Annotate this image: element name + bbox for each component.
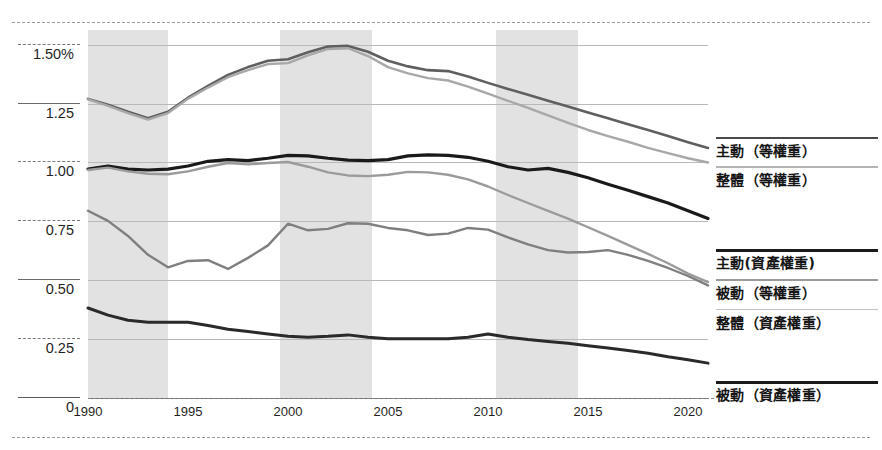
y-tick-rule bbox=[18, 103, 80, 104]
legend-label: 整體（等權重） bbox=[716, 166, 878, 189]
y-axis-tick: 1.25 bbox=[0, 103, 80, 121]
legend-swatch-line bbox=[716, 279, 878, 281]
y-tick-rule bbox=[18, 161, 80, 162]
legend-label: 被動（資產權重） bbox=[716, 381, 878, 404]
y-tick-rule bbox=[18, 44, 80, 45]
x-axis-tick: 1990 bbox=[74, 404, 103, 419]
legend-item[interactable]: 整體（等權重） bbox=[716, 166, 878, 189]
y-tick-rule bbox=[18, 279, 80, 280]
series-lines bbox=[88, 30, 708, 398]
legend-item[interactable]: 被動（等權重） bbox=[716, 279, 878, 302]
legend-label: 主動(資產權重) bbox=[716, 249, 878, 272]
y-tick-rule bbox=[18, 397, 80, 398]
y-tick-label: 1.50% bbox=[0, 44, 80, 62]
legend-item[interactable]: 整體（資產權重） bbox=[716, 309, 878, 332]
y-axis-tick: 0.50 bbox=[0, 279, 80, 297]
x-axis: 1990199520002005201020152020 bbox=[88, 398, 714, 438]
y-axis-tick: 0.75 bbox=[0, 220, 80, 238]
x-axis-tick: 2020 bbox=[674, 404, 703, 419]
legend-label: 主動（等權重） bbox=[716, 137, 878, 160]
x-axis-line bbox=[88, 398, 714, 399]
x-axis-tick: 2015 bbox=[574, 404, 603, 419]
series-line bbox=[88, 48, 708, 162]
y-tick-rule bbox=[18, 338, 80, 339]
y-axis-tick: 0.25 bbox=[0, 338, 80, 356]
plot-area bbox=[88, 30, 708, 398]
legend-label: 被動（等權重） bbox=[716, 279, 878, 302]
series-line bbox=[88, 308, 708, 363]
y-axis-tick: 1.00 bbox=[0, 161, 80, 179]
x-axis-tick: 2010 bbox=[474, 404, 503, 419]
chart-legend: 主動（等權重）整體（等權重）主動(資產權重)被動（等權重）整體（資產權重）被動（… bbox=[716, 0, 882, 450]
legend-item[interactable]: 主動（等權重） bbox=[716, 137, 878, 160]
series-line bbox=[88, 155, 708, 219]
x-axis-tick: 1995 bbox=[174, 404, 203, 419]
y-tick-label: 0.50 bbox=[0, 279, 80, 297]
y-axis-tick: 1.50% bbox=[0, 44, 80, 62]
y-tick-label: 1.00 bbox=[0, 161, 80, 179]
legend-swatch-line bbox=[716, 381, 878, 384]
legend-item[interactable]: 被動（資產權重） bbox=[716, 381, 878, 404]
series-line bbox=[88, 46, 708, 148]
x-axis-tick: 2005 bbox=[374, 404, 403, 419]
y-tick-label: 0.75 bbox=[0, 220, 80, 238]
y-tick-label: 0 bbox=[0, 397, 80, 415]
y-axis: 00.250.500.751.001.251.50% bbox=[0, 0, 88, 430]
legend-swatch-line bbox=[716, 309, 878, 310]
legend-swatch-line bbox=[716, 166, 878, 168]
chart-root: 00.250.500.751.001.251.50% 1990199520002… bbox=[0, 0, 882, 450]
series-line bbox=[88, 211, 708, 286]
y-tick-label: 1.25 bbox=[0, 103, 80, 121]
y-axis-tick: 0 bbox=[0, 397, 80, 415]
y-tick-label: 0.25 bbox=[0, 338, 80, 356]
legend-swatch-line bbox=[716, 137, 878, 139]
y-tick-rule bbox=[18, 220, 80, 221]
frame-rule-bottom bbox=[12, 437, 870, 438]
legend-item[interactable]: 主動(資產權重) bbox=[716, 249, 878, 272]
legend-label: 整體（資產權重） bbox=[716, 309, 878, 332]
x-axis-tick: 2000 bbox=[274, 404, 303, 419]
legend-swatch-line bbox=[716, 249, 878, 252]
